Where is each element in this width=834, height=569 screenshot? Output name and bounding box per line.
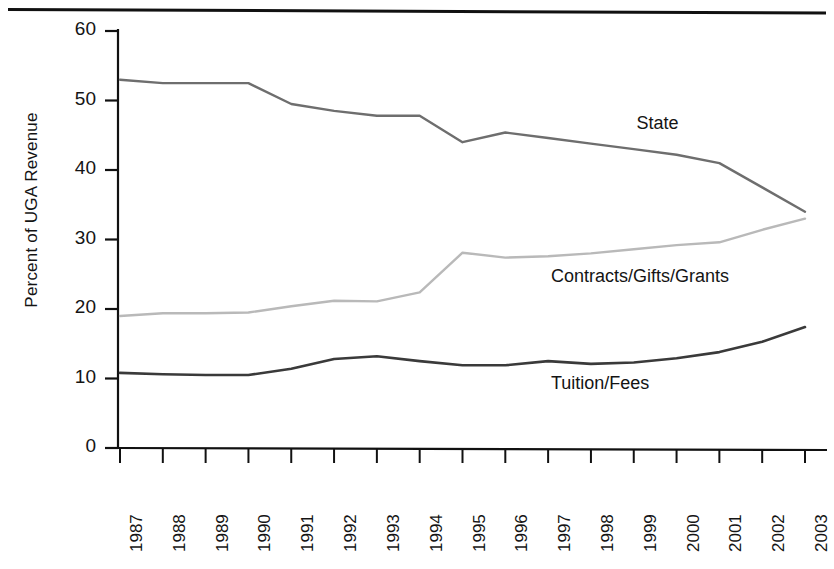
- series-line-2: [120, 327, 805, 375]
- x-axis-line: [118, 448, 827, 450]
- series-line-0: [120, 80, 805, 212]
- plot-area: [0, 0, 834, 569]
- series-line-1: [120, 219, 805, 316]
- chart-figure: Percent of UGA Revenue 0102030405060 198…: [0, 0, 834, 569]
